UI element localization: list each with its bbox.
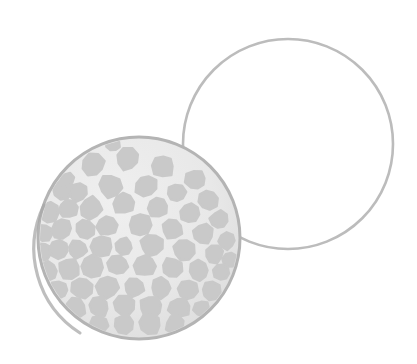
golf-ball-dimple: [96, 217, 117, 235]
golf-ball-dimple: [130, 214, 151, 235]
golf-ball-dimple: [91, 236, 112, 256]
golf-ball-dimple: [52, 220, 71, 239]
illustration-canvas: Golf ball and outlined circle illustrati…: [0, 0, 417, 364]
golf-ball-dimple: [148, 198, 167, 216]
golf-ball-dimple: [213, 265, 229, 280]
golf-ball-dimple: [168, 185, 186, 201]
golf-ball-illustration: [0, 0, 417, 364]
golf-ball-dimple: [178, 281, 198, 299]
golf-ball-dimple: [116, 238, 132, 255]
golf-ball-dimple: [90, 297, 108, 316]
golf-ball-dimple: [114, 296, 134, 315]
golf-ball-dimple: [136, 176, 157, 196]
golf-ball-dimple: [115, 316, 133, 334]
golf-ball-dimple: [114, 193, 135, 213]
golf-ball-dimple: [163, 258, 182, 276]
golf-ball-dimple: [82, 255, 103, 278]
golf-ball-dimple: [139, 314, 159, 334]
golf-ball-dimple: [77, 220, 95, 239]
golf-ball-dimple: [49, 240, 67, 259]
golf-ball-dimple: [180, 203, 199, 222]
golf-ball-dimple: [199, 191, 218, 210]
golf-ball-dimple: [163, 220, 182, 239]
golf-ball: [34, 137, 240, 339]
golf-ball-dimple: [185, 171, 204, 188]
golf-ball-dimple: [190, 260, 208, 281]
golf-ball-dimple: [152, 157, 172, 176]
golf-ball-dimple: [168, 299, 189, 317]
golf-ball-dimple: [60, 259, 79, 279]
golf-ball-dimple: [203, 282, 221, 300]
